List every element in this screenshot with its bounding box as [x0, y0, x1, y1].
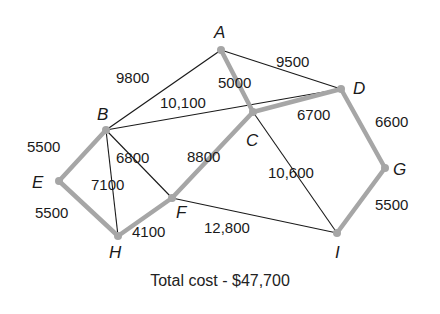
- node-label-d: D: [353, 79, 365, 98]
- node-label-f: F: [176, 203, 188, 222]
- node-label-e: E: [32, 173, 44, 192]
- edge-weight-c-i: 10,600: [268, 164, 314, 181]
- total-cost-caption: Total cost - $47,700: [0, 272, 440, 290]
- node-d: [337, 85, 345, 93]
- mst-graph: 9800950010,1007100680012,80010,600500067…: [0, 0, 440, 314]
- node-a: [217, 46, 225, 54]
- node-label-c: C: [246, 131, 259, 150]
- edge-weight-b-e: 5500: [27, 138, 60, 155]
- node-b: [102, 126, 110, 134]
- node-label-b: B: [97, 105, 108, 124]
- node-f: [168, 194, 176, 202]
- edge-weight-b-h: 7100: [91, 176, 124, 193]
- node-label-g: G: [393, 160, 406, 179]
- edge-a-b: [106, 50, 221, 130]
- node-label-h: H: [109, 243, 122, 262]
- edge-weight-g-i: 5500: [375, 196, 408, 213]
- edge-weight-a-b: 9800: [116, 69, 149, 86]
- edge-weight-d-g: 6600: [375, 113, 408, 130]
- edge-f-i: [172, 198, 337, 233]
- edge-weight-a-d: 9500: [276, 53, 309, 70]
- node-h: [114, 232, 122, 240]
- edge-weight-c-d: 6700: [297, 106, 330, 123]
- edge-weight-b-d: 10,100: [160, 94, 206, 111]
- node-g: [381, 164, 389, 172]
- edge-weight-f-c: 8800: [187, 148, 220, 165]
- edge-weight-a-c: 5000: [218, 74, 251, 91]
- edge-weight-h-f: 4100: [132, 223, 165, 240]
- edge-weight-e-h: 5500: [35, 204, 68, 221]
- node-label-i: I: [335, 243, 340, 262]
- node-e: [55, 177, 63, 185]
- node-c: [249, 108, 257, 116]
- edge-weight-f-i: 12,800: [204, 219, 250, 236]
- node-label-a: A: [213, 23, 225, 42]
- node-i: [333, 229, 341, 237]
- edge-b-e: [59, 130, 106, 181]
- edge-weight-b-f: 6800: [116, 149, 149, 166]
